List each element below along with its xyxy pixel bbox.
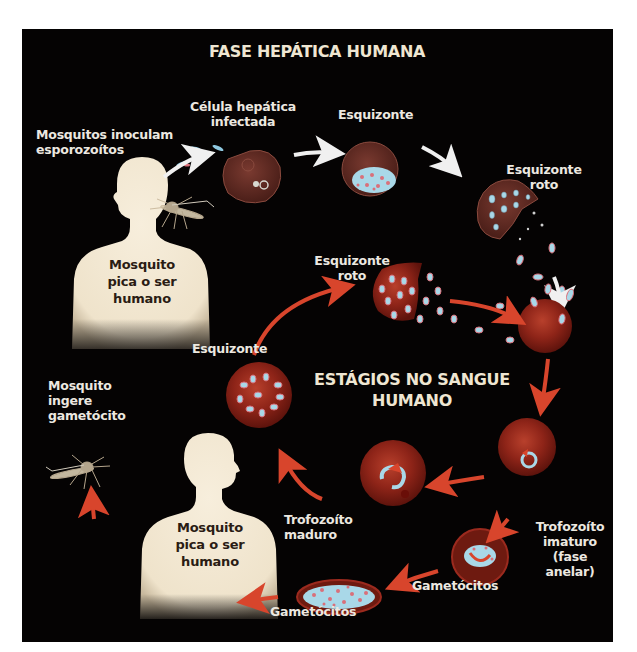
malaria-lifecycle-diagram: FASE HEPÁTICA HUMANA ESTÁGIOS NO SANGUE …	[22, 29, 613, 642]
blood-schizont	[226, 362, 292, 428]
label-mosquito-ingests: Mosquito ingere gametócito	[48, 378, 126, 423]
arrow-rbc-to-immature	[542, 359, 548, 405]
infected-liver-cell	[223, 150, 281, 202]
label-liver-schizont: Esquizonte	[338, 107, 408, 122]
label-human-top: Mosquito pica o ser humano	[92, 256, 192, 307]
diagram-artwork	[22, 29, 613, 642]
arrow-merozoites-to-rbc	[554, 277, 560, 305]
gametocyte-cell-round	[452, 529, 508, 585]
label-ruptured-liver-schizont: Esquizonte roto	[504, 162, 584, 192]
ruptured-liver-schizont	[477, 180, 565, 296]
arrow-human-to-mosquito	[92, 497, 94, 519]
arrow-immature-to-gametocyte	[494, 519, 508, 535]
label-human-bottom: Mosquito pica o ser humano	[160, 519, 260, 570]
arrow-schizont-to-ruptured-blood	[254, 287, 344, 355]
mature-trophozoite-cell	[360, 440, 426, 506]
label-gametocytes-bottom: Gametócitos	[270, 604, 356, 619]
arrow-sporozoites-to-liver	[164, 155, 204, 177]
liver-schizont	[342, 142, 398, 196]
label-blood-schizont: Esquizonte	[192, 341, 267, 356]
arrow-mature-to-schizont	[284, 459, 322, 499]
title-blood-stages: ESTÁGIOS NO SANGUE HUMANO	[312, 369, 512, 411]
label-immature-trophozoite: Trofozoíto imaturo (fase anelar)	[528, 519, 612, 579]
label-ruptured-blood-schizont: Esquizonte roto	[312, 253, 392, 283]
label-mature-trophozoite: Trofozoíto maduro	[284, 512, 353, 542]
title-liver-phase: FASE HEPÁTICA HUMANA	[192, 41, 442, 62]
label-infected-liver-cell: Célula hepática infectada	[184, 99, 302, 129]
arrow-schizont-to-ruptured	[422, 147, 454, 169]
label-gametocytes-right: Gametócitos	[412, 578, 498, 593]
label-mosquitoes-inoculate: Mosquitos inoculam esporozoítos	[36, 127, 173, 157]
ruptured-blood-schizont	[373, 263, 514, 343]
immature-trophozoite-cell	[498, 418, 556, 476]
arrow-immature-to-mature	[436, 477, 484, 485]
arrow-ruptured-to-rbc	[450, 301, 516, 319]
mosquito-bottom-icon	[46, 455, 110, 489]
red-blood-cell-invaded	[518, 284, 575, 353]
arrow-liver-to-schizont	[294, 152, 334, 155]
